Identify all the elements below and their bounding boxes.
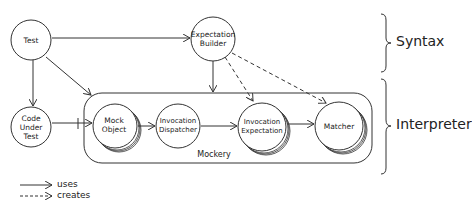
expectation-builder-label: Expectation Builder bbox=[191, 30, 236, 48]
label-line: Builder bbox=[191, 39, 236, 48]
edge-expectation-builder-invocation-expectation bbox=[225, 57, 253, 101]
label-line: Test bbox=[24, 36, 39, 45]
syntax-group-label: Syntax bbox=[396, 33, 444, 49]
label-line: Expectation bbox=[241, 127, 283, 136]
mockery-label: Mockery bbox=[197, 150, 231, 159]
invocation-dispatcher-label: Invocation Dispatcher bbox=[159, 117, 197, 135]
matcher-label: Matcher bbox=[324, 122, 355, 131]
label-line: Invocation bbox=[241, 118, 283, 127]
label-line: Dispatcher bbox=[159, 126, 197, 135]
test-label: Test bbox=[24, 36, 39, 45]
label-line: Code bbox=[20, 114, 43, 123]
label-line: Under bbox=[20, 123, 43, 132]
label-line: Expectation bbox=[191, 30, 236, 39]
label-line: Matcher bbox=[324, 122, 355, 131]
legend-creates-label: creates bbox=[57, 190, 90, 200]
syntax-brace bbox=[381, 14, 391, 72]
interpreter-group-label: Interpreter bbox=[396, 116, 472, 132]
label-line: Invocation bbox=[159, 117, 197, 126]
label-line: Object bbox=[102, 125, 126, 134]
label-line: Test bbox=[20, 132, 43, 141]
legend-uses-label: uses bbox=[57, 179, 78, 189]
invocation-expectation-label: Invocation Expectation bbox=[241, 118, 283, 136]
code-under-test-label: Code Under Test bbox=[20, 114, 43, 141]
interpreter-brace bbox=[381, 79, 391, 174]
edge-expectation-builder-matcher bbox=[232, 53, 326, 103]
edge-test-mockery bbox=[46, 57, 91, 95]
label-line: Mock bbox=[102, 116, 126, 125]
mock-object-label: Mock Object bbox=[102, 116, 126, 134]
